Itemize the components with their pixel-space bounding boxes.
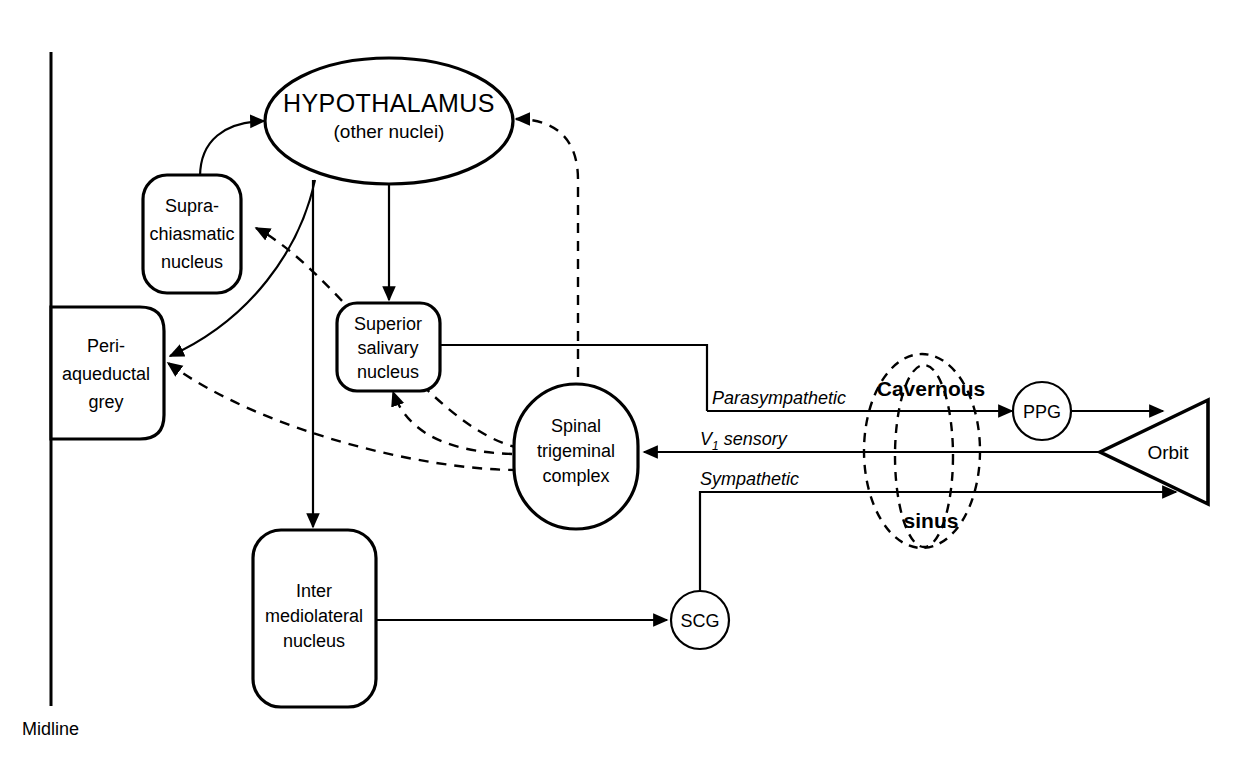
connector-dashed-spinal-trigeminal-to-superior-salivary [393,392,512,454]
intermediolateral-label-line1: Inter [296,581,332,601]
v1-sensory-subscript: 1 [712,439,719,453]
superior-salivary-label-line3: nucleus [357,362,419,382]
intermediolateral-label-line3: nucleus [283,631,345,651]
v1-sensory-suffix: sensory [719,429,788,449]
node-suprachiasmatic-nucleus[interactable]: Supra- chiasmatic nucleus [143,175,241,293]
periaqueductal-label-line2: aqueductal [62,364,150,384]
periaqueductal-label-line1: Peri- [87,336,125,356]
pathway-label-parasympathetic: Parasympathetic [712,388,846,408]
spinal-trigeminal-label-line1: Spinal [551,416,601,436]
connector-sympathetic-scg-to-orbit [700,492,1176,592]
connector-scn-to-hypothalamus [200,121,264,177]
node-ppg[interactable]: PPG [1013,382,1071,440]
node-spinal-trigeminal-complex[interactable]: Spinal trigeminal complex [514,384,638,529]
hypothalamus-label-main: HYPOTHALAMUS [283,89,495,117]
pathway-label-v1-sensory: V1 sensory [700,429,788,453]
node-hypothalamus[interactable]: HYPOTHALAMUS (other nuclei) [265,58,513,184]
intermediolateral-label-line2: mediolateral [265,606,363,626]
node-orbit[interactable]: Orbit [1100,400,1208,504]
node-periaqueductal-grey[interactable]: Peri- aqueductal grey [51,307,164,439]
ppg-label: PPG [1023,402,1061,422]
cavernous-sinus-label-bottom: sinus [904,509,959,532]
midline-label: Midline [22,719,79,739]
node-superior-salivary-nucleus[interactable]: Superior salivary nucleus [337,303,440,391]
spinal-trigeminal-label-line2: trigeminal [537,441,615,461]
scg-label: SCG [680,611,719,631]
svg-text:V1 sensory: V1 sensory [700,429,788,453]
periaqueductal-label-line3: grey [88,392,123,412]
suprachiasmatic-label-line1: Supra- [165,196,219,216]
cavernous-sinus-label-top: Cavernous [877,377,986,400]
pathway-label-sympathetic: Sympathetic [700,469,799,489]
orbit-label: Orbit [1147,442,1189,463]
hypothalamus-label-sub: (other nuclei) [334,121,445,142]
node-intermediolateral-nucleus[interactable]: Inter mediolateral nucleus [253,530,376,707]
diagram-canvas: HYPOTHALAMUS (other nuclei) Supra- chias… [0,0,1245,770]
superior-salivary-label-line1: Superior [354,314,422,334]
node-scg[interactable]: SCG [671,591,729,649]
connector-dashed-spinal-trigeminal-to-hypothalamus [516,119,578,395]
spinal-trigeminal-label-line3: complex [542,466,609,486]
superior-salivary-label-line2: salivary [357,338,418,358]
suprachiasmatic-label-line2: chiasmatic [149,224,234,244]
suprachiasmatic-label-line3: nucleus [161,252,223,272]
anatomical-pathway-diagram: HYPOTHALAMUS (other nuclei) Supra- chias… [0,0,1245,770]
